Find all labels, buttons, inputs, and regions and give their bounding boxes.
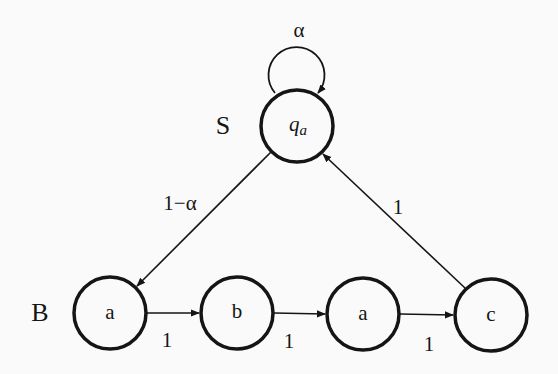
- edge-label-c-to-qa: 1: [393, 197, 404, 218]
- node-b-label: b: [232, 301, 243, 322]
- node-qa-label: qa: [289, 114, 307, 138]
- state-diagram: S B qa a b a c α 1−α 1 1 1 1: [0, 0, 558, 374]
- node-a1-label: a: [105, 302, 114, 323]
- edge-label-qa-to-a1: 1−α: [163, 193, 196, 214]
- node-qa-label-sub: a: [300, 122, 308, 138]
- edge-label-a2-to-c: 1: [424, 334, 435, 355]
- edge-qa-to-a1: [137, 152, 271, 286]
- edge-c-to-qa: [323, 154, 465, 288]
- node-a2-label: a: [358, 303, 367, 324]
- group-label-s: S: [216, 113, 230, 139]
- edge-label-a1-to-b: 1: [162, 330, 173, 351]
- edge-label-self-loop: α: [293, 20, 304, 41]
- diagram-canvas: [0, 0, 558, 374]
- node-qa-label-main: q: [289, 112, 300, 136]
- node-c-label: c: [486, 304, 495, 325]
- edge-label-b-to-a2: 1: [284, 331, 295, 352]
- edge-self-loop-qa: [269, 47, 325, 93]
- group-label-b: B: [31, 300, 48, 326]
- edge-a2-to-c: [400, 314, 453, 315]
- edge-b-to-a2: [274, 313, 325, 314]
